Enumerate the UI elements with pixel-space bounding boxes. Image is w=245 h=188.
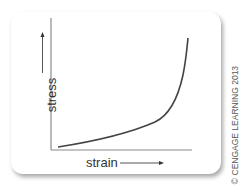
stress-strain-curve (58, 38, 188, 147)
y-arrow-icon (41, 32, 45, 73)
x-arrow-icon (120, 161, 164, 165)
y-axis-label: stress (45, 75, 59, 115)
stress-strain-plot (0, 0, 245, 188)
copyright-credit: © CENGAGE LEARNING 2013 (230, 50, 240, 188)
x-axis-label: strain (86, 156, 118, 170)
